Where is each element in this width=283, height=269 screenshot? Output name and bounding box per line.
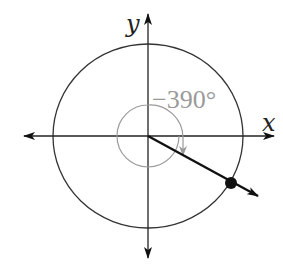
terminal-ray (148, 136, 258, 196)
x-axis-label: x (262, 109, 276, 137)
terminal-point (225, 177, 237, 189)
angle-diagram: y x −390° (0, 0, 283, 269)
y-axis-label: y (125, 10, 140, 38)
angle-label: −390° (152, 85, 216, 114)
